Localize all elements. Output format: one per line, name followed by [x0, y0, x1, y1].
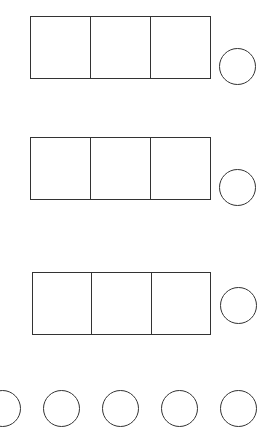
bottom-circle-4 — [161, 390, 198, 427]
circle-row-1 — [219, 48, 256, 85]
box-row-1 — [30, 16, 211, 79]
box-cell — [152, 273, 210, 334]
box-cell — [151, 17, 210, 78]
box-cell — [151, 138, 210, 199]
box-cell — [33, 273, 92, 334]
circle-row-2 — [219, 169, 256, 206]
bottom-circle-2 — [43, 390, 80, 427]
bottom-circle-5 — [220, 390, 257, 427]
box-cell — [31, 138, 91, 199]
box-cell — [91, 17, 151, 78]
box-cell — [91, 138, 151, 199]
box-row-3 — [32, 272, 211, 335]
box-cell — [92, 273, 151, 334]
bottom-circle-1 — [0, 390, 21, 427]
box-cell — [31, 17, 91, 78]
box-row-2 — [30, 137, 211, 200]
circle-row-3 — [220, 287, 257, 324]
bottom-circle-3 — [102, 390, 139, 427]
